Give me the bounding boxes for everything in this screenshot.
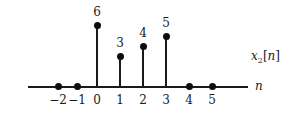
x-axis-label: n	[255, 80, 263, 92]
data-value-label: 5	[156, 17, 176, 29]
data-point-marker	[94, 22, 101, 29]
data-point-marker	[55, 83, 62, 90]
x-tick-label: 4	[177, 94, 201, 106]
stem-plot-figure: 6345 −2−1012345 x2[n] n	[0, 0, 303, 115]
stem-line	[96, 25, 98, 86]
y-axis-label: x2[n]	[251, 50, 280, 67]
data-point-marker	[186, 83, 193, 90]
stem-line	[119, 56, 121, 86]
x-tick-label: 3	[154, 94, 178, 106]
data-value-label: 4	[133, 27, 153, 39]
data-point-marker	[140, 43, 147, 50]
data-point-marker	[74, 83, 81, 90]
stem-line	[165, 36, 167, 86]
x-tick-label: 5	[200, 94, 224, 106]
stem-line	[142, 46, 144, 86]
x-tick-label: 2	[131, 94, 155, 106]
y-axis-label-base: x	[251, 49, 258, 63]
data-value-label: 3	[110, 37, 130, 49]
data-point-marker	[209, 83, 216, 90]
data-point-marker	[117, 53, 124, 60]
y-axis-label-bracket-close: ]	[275, 49, 280, 63]
x-tick-label: 1	[108, 94, 132, 106]
data-value-label: 6	[87, 6, 107, 18]
x-tick-label: 0	[85, 94, 109, 106]
data-point-marker	[163, 33, 170, 40]
